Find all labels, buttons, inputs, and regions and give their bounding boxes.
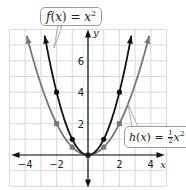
y-axis-up-arrow-icon <box>85 29 91 37</box>
f-var: x <box>55 10 62 24</box>
h-data-point <box>101 145 106 150</box>
f-equals: = <box>67 10 85 24</box>
f-data-point <box>101 137 106 142</box>
h-data-point <box>54 121 59 126</box>
h-denominator: 2 <box>168 138 172 145</box>
h-curve-arrow-icon <box>26 36 32 44</box>
f-exponent: 2 <box>91 9 96 18</box>
h-data-point <box>117 121 122 126</box>
h-fraction: 12 <box>168 130 172 145</box>
h-equals: = <box>151 131 167 144</box>
h-var: x <box>140 131 146 144</box>
x-axis-right-arrow-icon <box>157 152 165 158</box>
f-function-label: f(x) = x2 <box>40 7 102 26</box>
f-data-point <box>85 152 90 157</box>
y-tick-label: 6 <box>78 56 84 67</box>
h-data-point <box>70 145 75 150</box>
x-axis-left-arrow-icon <box>12 152 20 158</box>
x-tick-label: −4 <box>18 159 33 170</box>
x-tick-label: 2 <box>116 159 122 170</box>
graph-canvas: −4−224246xy <box>0 0 186 190</box>
f-data-point <box>70 137 75 142</box>
x-tick-label: −2 <box>49 159 64 170</box>
y-tick-label: 4 <box>78 87 84 98</box>
h-curve-arrow-icon <box>144 36 150 44</box>
h-exponent: 2 <box>180 129 185 138</box>
h-name: h <box>129 131 136 144</box>
y-tick-label: 2 <box>78 119 84 130</box>
x-axis-label: x <box>160 159 166 170</box>
f-name: f <box>46 10 50 24</box>
f-data-point <box>117 90 122 95</box>
y-axis-label: y <box>92 27 99 38</box>
f-data-point <box>54 90 59 95</box>
h-function-label: h(x) = 12x2 <box>124 126 186 148</box>
x-tick-label: 4 <box>148 159 154 170</box>
